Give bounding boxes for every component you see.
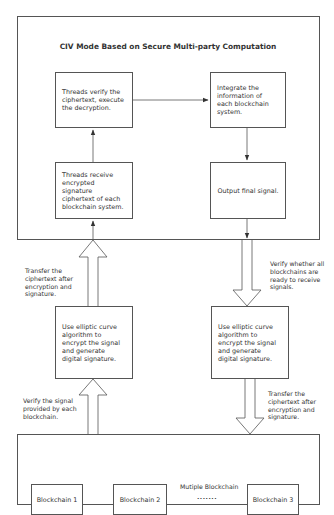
hollow-arrow-left-lower — [79, 379, 107, 434]
connector-layer — [0, 0, 334, 515]
hollow-arrow-right-upper — [233, 240, 261, 306]
hollow-arrow-left-upper — [79, 240, 107, 306]
hollow-arrow-right-lower — [236, 379, 264, 434]
